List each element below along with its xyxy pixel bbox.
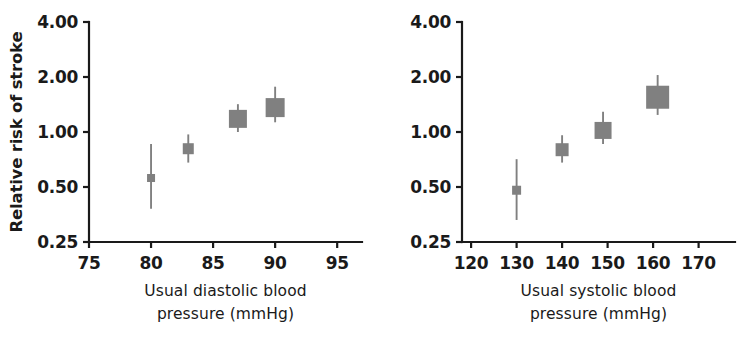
data-series <box>147 87 285 209</box>
y-tick-label: 0.25 <box>410 232 451 252</box>
x-tick-label: 140 <box>545 253 580 273</box>
figure-relative-risk-of-stroke: 0.250.501.002.004.007580859095Usual dias… <box>0 0 746 338</box>
x-tick-label: 120 <box>454 253 489 273</box>
data-point-marker <box>646 86 669 109</box>
x-tick-label: 80 <box>140 253 164 273</box>
x-tick-label: 90 <box>264 253 288 273</box>
y-tick-label: 2.00 <box>37 67 78 87</box>
x-tick-label: 160 <box>636 253 671 273</box>
y-tick-label: 4.00 <box>37 12 78 32</box>
y-tick-label: 0.50 <box>37 177 78 197</box>
panel-systolic: 0.250.501.002.004.00120130140150160170Us… <box>373 0 746 338</box>
x-tick-label: 170 <box>681 253 716 273</box>
y-tick-label: 4.00 <box>410 12 451 32</box>
panel-diastolic: 0.250.501.002.004.007580859095Usual dias… <box>0 0 373 338</box>
plot-area-diastolic: 0.250.501.002.004.007580859095Usual dias… <box>0 0 373 338</box>
y-axis-title: Relative risk of stroke <box>7 32 26 233</box>
x-tick-label: 95 <box>326 253 349 273</box>
data-point-marker <box>229 110 247 128</box>
plot-area-systolic: 0.250.501.002.004.00120130140150160170Us… <box>373 0 746 338</box>
data-point-marker <box>266 98 285 117</box>
y-tick-label: 0.50 <box>410 177 451 197</box>
data-series <box>512 75 669 220</box>
x-tick-label: 75 <box>77 253 100 273</box>
x-axis-title-line2: pressure (mmHg) <box>530 305 667 323</box>
data-point-marker <box>512 186 521 195</box>
x-axis-title-line2: pressure (mmHg) <box>157 305 294 323</box>
data-point-marker <box>595 122 612 139</box>
y-tick-label: 1.00 <box>410 122 451 142</box>
y-tick-label: 2.00 <box>410 67 451 87</box>
data-point-marker <box>147 174 155 182</box>
x-axis-title-line1: Usual systolic blood <box>521 282 677 300</box>
x-tick-label: 85 <box>202 253 225 273</box>
x-tick-label: 150 <box>590 253 625 273</box>
data-point-marker <box>556 143 569 156</box>
y-tick-label: 0.25 <box>37 232 78 252</box>
x-tick-label: 130 <box>499 253 534 273</box>
data-point-marker <box>183 143 194 154</box>
x-axis-title-line1: Usual diastolic blood <box>144 282 306 300</box>
y-tick-label: 1.00 <box>37 122 78 142</box>
